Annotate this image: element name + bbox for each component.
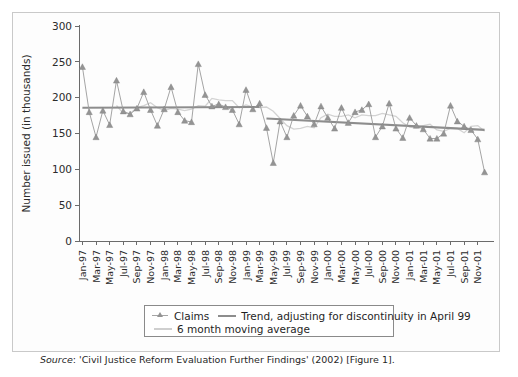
- x-tick-label: Jul-99: [281, 250, 292, 278]
- legend-label-trend: Trend, adjusting for discontinuity in Ap…: [241, 310, 470, 322]
- x-tick-label: Sep-01: [459, 250, 470, 283]
- x-tick-label: Jul-98: [200, 250, 211, 278]
- x-tick-label: Jan-97: [77, 250, 88, 281]
- chart-legend: Claims Trend, adjusting for discontinuit…: [144, 305, 394, 337]
- x-tick-label: Jul-00: [363, 250, 374, 278]
- x-tick-label: Jan-00: [322, 250, 333, 281]
- claims-data-point: [113, 77, 119, 83]
- y-axis-title: Number issued (in thousands): [20, 54, 32, 212]
- y-tick-label: 150: [52, 127, 72, 139]
- moving-average-line-icon: [154, 323, 172, 334]
- claims-data-point: [93, 134, 99, 140]
- x-tick-label: Sep-97: [131, 250, 142, 283]
- claims-data-point: [291, 112, 297, 118]
- claims-data-point: [270, 160, 276, 166]
- legend-row-primary: Claims Trend, adjusting for discontinuit…: [151, 309, 387, 322]
- legend-entry-trend[interactable]: Trend, adjusting for discontinuity in Ap…: [218, 310, 470, 322]
- x-tick-label: May-00: [350, 250, 361, 285]
- claims-data-point: [154, 123, 160, 129]
- claims-data-point: [454, 118, 460, 124]
- claims-data-point: [263, 125, 269, 131]
- legend-entry-claims[interactable]: Claims: [151, 310, 209, 322]
- figure-container: 050100150200250300Number issued (in thou…: [12, 12, 500, 352]
- x-tick-label: May-01: [431, 250, 442, 285]
- x-tick-label: Nov-97: [145, 250, 156, 284]
- claims-data-point: [372, 134, 378, 140]
- claims-data-point: [284, 134, 290, 140]
- claims-data-point: [195, 61, 201, 67]
- claims-trend-line-chart: 050100150200250300Number issued (in thou…: [13, 13, 501, 353]
- x-tick-label: May-97: [104, 250, 115, 285]
- source-citation: : 'Civil Justice Reform Evaluation Furth…: [73, 354, 395, 365]
- x-tick-label: Jan-01: [404, 250, 415, 281]
- claims-data-point: [407, 115, 413, 121]
- claims-data-point: [386, 100, 392, 106]
- claims-data-point: [216, 101, 222, 107]
- claims-data-point: [141, 89, 147, 95]
- x-tick-label: Mar-00: [336, 250, 347, 283]
- claims-data-point: [168, 84, 174, 90]
- x-tick-label: Jul-97: [118, 250, 129, 278]
- claims-series-line: [82, 64, 484, 172]
- source-note: Source: 'Civil Justice Reform Evaluation…: [40, 354, 395, 365]
- claims-data-point: [86, 109, 92, 115]
- x-tick-label: Nov-99: [309, 250, 320, 284]
- x-tick-label: Nov-01: [472, 250, 483, 284]
- x-tick-label: Sep-98: [213, 250, 224, 283]
- y-tick-label: 250: [52, 56, 72, 68]
- x-tick-label: May-99: [268, 250, 279, 285]
- claims-data-point: [338, 105, 344, 111]
- y-tick-label: 200: [52, 91, 72, 103]
- claims-data-point: [107, 122, 113, 128]
- claims-data-point: [243, 87, 249, 93]
- claims-data-point: [447, 102, 453, 108]
- claims-data-point: [332, 125, 338, 131]
- claims-data-point: [257, 100, 263, 106]
- x-tick-label: Jan-99: [241, 250, 252, 281]
- x-tick-label: Mar-98: [172, 250, 183, 283]
- legend-label-claims: Claims: [174, 310, 209, 322]
- claims-data-point: [318, 103, 324, 109]
- y-tick-label: 100: [52, 163, 72, 175]
- claims-data-point: [202, 92, 208, 98]
- x-tick-label: Sep-00: [377, 250, 388, 283]
- claims-data-point: [304, 113, 310, 119]
- claims-data-point: [366, 101, 372, 107]
- x-tick-label: Mar-97: [91, 250, 102, 283]
- x-tick-label: May-98: [186, 250, 197, 285]
- trend-line-icon: [218, 310, 236, 321]
- y-tick-label: 50: [59, 199, 72, 211]
- x-tick-label: Sep-99: [295, 250, 306, 283]
- claims-data-point: [236, 121, 242, 127]
- x-tick-label: Nov-98: [227, 250, 238, 284]
- claims-marker-icon: [151, 310, 169, 321]
- legend-label-moving-average: 6 month moving average: [177, 323, 310, 335]
- claims-data-point: [297, 102, 303, 108]
- x-tick-label: Mar-01: [418, 250, 429, 283]
- x-tick-label: Nov-00: [390, 250, 401, 284]
- legend-entry-moving-average[interactable]: 6 month moving average: [154, 323, 310, 335]
- y-tick-label: 300: [52, 20, 72, 32]
- legend-row-secondary: 6 month moving average: [151, 322, 387, 335]
- x-tick-label: Jul-01: [445, 250, 456, 278]
- claims-data-point: [481, 169, 487, 175]
- y-tick-label: 0: [65, 235, 72, 247]
- x-tick-label: Mar-99: [254, 250, 265, 283]
- chart-render-group: 050100150200250300Number issued (in thou…: [20, 20, 494, 285]
- claims-data-point: [79, 64, 85, 70]
- source-label: Source: [40, 354, 73, 365]
- claims-data-point: [461, 123, 467, 129]
- x-tick-label: Jan-98: [159, 250, 170, 281]
